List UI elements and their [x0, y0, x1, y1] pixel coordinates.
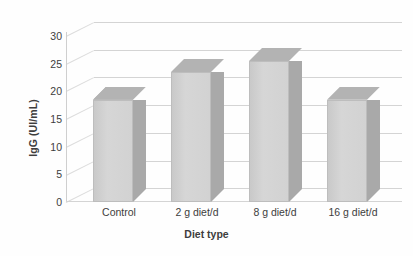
x-tick-label-16g-diet: 16 g diet/d: [328, 206, 377, 218]
y-tick-label: 0: [28, 196, 62, 208]
bar-8g-diet: [249, 61, 289, 202]
grid-depth-connector: [66, 133, 94, 148]
gridline-35: [94, 22, 402, 23]
x-tick-label-control: Control: [102, 206, 136, 218]
y-tick-label: 15: [28, 113, 62, 125]
grid-depth-connector: [66, 22, 94, 37]
y-axis-tick-labels: 0 5 10 15 20 25 30: [28, 0, 62, 256]
x-tick-label-2g-diet: 2 g diet/d: [175, 206, 218, 218]
y-axis-line: [66, 32, 67, 202]
bar-top-face-shape: [327, 87, 380, 100]
bar-side-face: [133, 100, 146, 202]
y-tick-label: 25: [28, 58, 62, 70]
x-axis-title: Diet type: [0, 228, 413, 240]
grid-depth-connector: [66, 105, 94, 120]
y-tick-label: 10: [28, 141, 62, 153]
gridline-25: [94, 77, 402, 78]
y-tick-label: 20: [28, 85, 62, 97]
y-tick-label: 30: [28, 30, 62, 42]
grid-depth-connector: [66, 161, 94, 176]
plot-area: [66, 6, 402, 202]
x-axis-tick-labels: Control 2 g diet/d 8 g diet/d 16 g diet/…: [66, 206, 402, 226]
gridline-30: [94, 50, 402, 51]
bar-front-face: [327, 100, 367, 202]
bar-front-face: [93, 100, 133, 202]
bar-control: [93, 100, 133, 202]
grid-depth-connector: [66, 77, 94, 92]
bar-side-face: [289, 61, 302, 202]
bar-front-face: [249, 61, 289, 202]
bar-chart: IgG (UI/mL) 0 5 10 15 20 25 30: [0, 0, 413, 256]
y-tick-label: 5: [28, 168, 62, 180]
bar-2g-diet: [171, 72, 211, 202]
bar-side-face: [367, 100, 380, 202]
bar-16g-diet: [327, 100, 367, 202]
bar-top-face-shape: [93, 87, 146, 100]
bar-front-face: [171, 72, 211, 202]
bar-top-face-shape: [171, 59, 224, 72]
x-tick-label-8g-diet: 8 g diet/d: [253, 206, 296, 218]
bar-side-face: [211, 72, 224, 202]
grid-depth-connector: [66, 50, 94, 65]
